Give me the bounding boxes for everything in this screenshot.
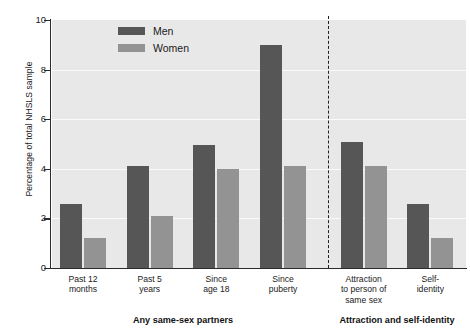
x-label-line: same sex — [321, 295, 407, 305]
x-axis-label: Self-identity — [387, 274, 470, 295]
legend-label-women: Women — [153, 42, 189, 54]
y-tick-label: 10 — [6, 14, 46, 25]
x-label-line: identity — [387, 284, 470, 294]
y-tick-label: 6 — [6, 113, 46, 124]
x-label-line: Self- — [387, 274, 470, 284]
gridline — [52, 70, 466, 71]
legend-swatch-women — [118, 44, 145, 52]
bar-women — [151, 216, 173, 268]
legend: Men Women — [118, 22, 189, 56]
bar-men — [127, 166, 149, 268]
x-axis-label: Sincepuberty — [240, 274, 326, 295]
x-label-line: puberty — [240, 284, 326, 294]
legend-item-women: Women — [118, 39, 189, 56]
bar-women — [84, 238, 106, 268]
bar-chart-figure: Percentage of total NHSLS sample 0246810… — [0, 0, 470, 333]
legend-label-men: Men — [153, 25, 173, 37]
y-tick-label: 2 — [6, 212, 46, 223]
section-label: Attraction and self-identity — [287, 315, 470, 325]
legend-item-men: Men — [118, 22, 189, 39]
gridline — [52, 169, 466, 170]
section-label: Any same-sex partners — [73, 315, 293, 325]
bar-men — [60, 204, 82, 268]
gridline — [52, 218, 466, 219]
bar-women — [284, 166, 306, 268]
y-tick-label: 8 — [6, 64, 46, 75]
bar-men — [407, 204, 429, 268]
bar-women — [431, 238, 453, 268]
bar-women — [217, 169, 239, 268]
plot-area — [52, 20, 466, 268]
bar-men — [341, 142, 363, 268]
bar-men — [193, 145, 215, 268]
section-divider-line — [328, 16, 329, 268]
bar-women — [365, 166, 387, 268]
x-label-line: Since — [240, 274, 326, 284]
y-tick-label: 0 — [6, 262, 46, 273]
bar-men — [260, 45, 282, 268]
y-tick-label: 4 — [6, 163, 46, 174]
gridline — [52, 119, 466, 120]
legend-swatch-men — [118, 27, 145, 35]
